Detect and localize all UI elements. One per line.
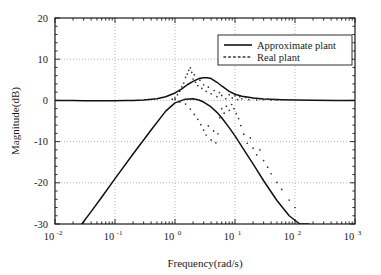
- y-tick-label: 20: [38, 13, 49, 24]
- y-tick-label: 0: [43, 95, 48, 106]
- y-tick-labels: 20100-10-20-30: [34, 13, 48, 230]
- y-tick-label: -20: [34, 177, 48, 188]
- svg-text:-2: -2: [57, 229, 63, 237]
- x-tick-labels: 10-210-1100101102103: [44, 229, 362, 242]
- svg-text:10: 10: [224, 231, 235, 242]
- x-tick-label: 10-1: [104, 229, 123, 242]
- x-tick-label: 101: [224, 229, 242, 242]
- y-tick-label: 10: [38, 54, 49, 65]
- x-tick-label: 102: [284, 229, 302, 242]
- svg-text:2: 2: [298, 229, 302, 237]
- y-tick-label: -30: [34, 219, 48, 230]
- x-axis-title: Frequency(rad/s): [167, 257, 242, 270]
- svg-text:10: 10: [284, 231, 295, 242]
- svg-text:1: 1: [238, 229, 242, 237]
- chart-canvas: 20100-10-20-30 10-210-1100101102103 Freq…: [0, 0, 381, 275]
- svg-text:10: 10: [344, 231, 355, 242]
- legend-label-real: Real plant: [257, 52, 300, 63]
- svg-text:10: 10: [104, 231, 115, 242]
- svg-text:-1: -1: [117, 229, 123, 237]
- x-tick-label: 10-2: [44, 229, 63, 242]
- svg-text:3: 3: [358, 229, 362, 237]
- x-tick-label: 100: [164, 229, 182, 242]
- legend-label-approximate: Approximate plant: [257, 40, 336, 51]
- svg-text:10: 10: [44, 231, 55, 242]
- legend: Approximate plant Real plant: [218, 35, 352, 65]
- y-axis-title: Magnitude(dB): [9, 87, 22, 155]
- y-tick-label: -10: [34, 136, 48, 147]
- svg-text:0: 0: [178, 229, 182, 237]
- x-tick-label: 103: [344, 229, 362, 242]
- bode-magnitude-figure: 20100-10-20-30 10-210-1100101102103 Freq…: [0, 0, 381, 275]
- svg-text:10: 10: [164, 231, 175, 242]
